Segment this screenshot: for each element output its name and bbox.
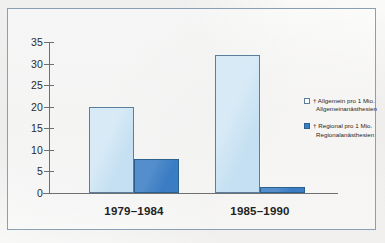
legend-entry: † Regional pro 1 Mio.Regionalanästhesien bbox=[304, 122, 385, 138]
chart-legend: † Allgemein pro 1 Mio.Allgemeinanästhesi… bbox=[304, 97, 385, 148]
y-axis-line bbox=[49, 42, 50, 193]
legend-swatch-icon bbox=[304, 123, 310, 129]
y-axis-tick-label: 20 bbox=[31, 101, 43, 113]
y-axis-tick-label: 15 bbox=[31, 122, 43, 134]
legend-label: † Regional pro 1 Mio.Regionalanästhesien bbox=[313, 122, 374, 138]
y-axis-tick bbox=[44, 150, 54, 151]
x-axis-line bbox=[43, 193, 338, 194]
y-axis-tick bbox=[44, 193, 54, 194]
legend-label: † Allgemein pro 1 Mio.Allgemeinanästhesi… bbox=[313, 97, 377, 113]
plot-area: 05101520253035 1979–19841985–1990 bbox=[49, 42, 296, 193]
y-axis-tick bbox=[44, 42, 54, 43]
legend-label-line2: Allgemeinanästhesien bbox=[313, 105, 377, 113]
legend-label-line2: Regionalanästhesien bbox=[313, 131, 374, 139]
y-axis-tick bbox=[44, 107, 54, 108]
bar-regional bbox=[134, 159, 179, 194]
y-axis-tick-label: 10 bbox=[31, 144, 43, 156]
y-axis-tick-label: 30 bbox=[31, 58, 43, 70]
bar-allgemein bbox=[215, 55, 260, 193]
y-axis-tick-label: 0 bbox=[37, 187, 43, 199]
y-axis-tick-label: 35 bbox=[31, 36, 43, 48]
bar-regional bbox=[260, 187, 305, 193]
y-axis-tick bbox=[44, 128, 54, 129]
y-axis-tick bbox=[44, 171, 54, 172]
legend-swatch-icon bbox=[304, 98, 310, 104]
x-axis-category-label: 1979–1984 bbox=[104, 205, 163, 217]
y-axis-tick bbox=[44, 85, 54, 86]
y-axis-tick bbox=[44, 64, 54, 65]
bar-allgemein bbox=[89, 107, 134, 193]
y-axis-tick-label: 25 bbox=[31, 79, 43, 91]
figure-frame: 05101520253035 1979–19841985–1990 † Allg… bbox=[7, 8, 376, 230]
x-axis-category-label: 1985–1990 bbox=[230, 205, 289, 217]
legend-entry: † Allgemein pro 1 Mio.Allgemeinanästhesi… bbox=[304, 97, 385, 113]
y-axis-tick-label: 5 bbox=[37, 165, 43, 177]
page-background: 05101520253035 1979–19841985–1990 † Allg… bbox=[0, 0, 385, 243]
